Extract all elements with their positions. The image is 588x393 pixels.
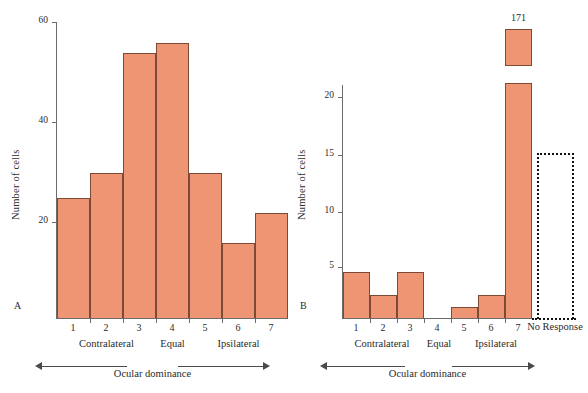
panel-a-ytick-label-20: 20 — [22, 215, 48, 225]
panel-b-xlabel-4: 4 — [427, 322, 447, 333]
panel-b-xlabel-6: 6 — [481, 322, 501, 333]
panel-b-xtick-sep-5 — [478, 319, 479, 323]
panel-b-bar-2 — [370, 295, 397, 319]
panel-a-bar-5 — [189, 173, 222, 319]
panel-a-xtick-sep-3 — [156, 319, 157, 323]
panel-a-bar-2 — [90, 173, 123, 319]
panel-b-xlabel-2: 2 — [373, 322, 393, 333]
panel-b-y-axis-label: Number of cells — [296, 120, 307, 220]
panel-b-xlabel-3: 3 — [400, 322, 420, 333]
panel-b-no-response-label: No Response — [520, 321, 588, 333]
panel-b-label: B — [300, 300, 307, 311]
panel-b-xlabel-5: 5 — [454, 322, 474, 333]
panel-b-group-contralateral: Contralateral — [340, 338, 424, 349]
panel-a-label: A — [14, 300, 22, 311]
panel-b-group-ipsilateral: Ipsilateral — [454, 338, 538, 349]
panel-a-bar-7 — [255, 213, 288, 319]
panel-a-bar-4 — [156, 43, 189, 319]
arrow-line-right — [452, 366, 528, 367]
panel-b-xtick-sep-1 — [370, 319, 371, 323]
panel-a-xlabel-1: 1 — [63, 322, 83, 333]
arrow-line-left — [42, 366, 127, 367]
panel-b-xlabel-1: 1 — [346, 322, 366, 333]
panel-a-xtick-sep-5 — [222, 319, 223, 323]
panel-b-ytick-label-5: 5 — [308, 260, 334, 270]
panel-b-axis-caption: Ocular dominance — [320, 368, 535, 379]
panel-a-xlabel-3: 3 — [129, 322, 149, 333]
panel-a-xlabel-2: 2 — [96, 322, 116, 333]
panel-b-ytick-15 — [338, 155, 343, 156]
panel-b-bar-7-value-label: 171 — [495, 12, 542, 23]
panel-b-bar-7-lower-segment — [505, 83, 532, 319]
panel-a-bar-6 — [222, 243, 255, 319]
panel-b-bar-3 — [397, 272, 424, 319]
panel-b-ytick-10 — [338, 212, 343, 213]
panel-a-xtick-sep-4 — [189, 319, 190, 323]
panel-b-ytick-5 — [338, 267, 343, 268]
panel-a: A Number of cells 60 40 20 1 2 3 4 5 — [0, 0, 286, 393]
panel-a-xlabel-4: 4 — [162, 322, 182, 333]
panel-b-xtick-sep-3 — [424, 319, 425, 323]
panel-b-xtick-sep-2 — [397, 319, 398, 323]
panel-a-xlabel-6: 6 — [228, 322, 248, 333]
panel-b-ytick-label-20: 20 — [308, 90, 334, 100]
panel-a-xtick-sep-6 — [255, 319, 256, 323]
panel-b-ytick-label-10: 10 — [308, 205, 334, 215]
panel-a-group-ipsilateral: Ipsilateral — [189, 338, 288, 349]
panel-a-group-contralateral: Contralateral — [57, 338, 156, 349]
arrow-line-right — [178, 366, 263, 367]
panel-b-ytick-20 — [338, 97, 343, 98]
panel-b-bar-7-upper-segment — [505, 29, 532, 66]
panel-a-xtick-sep-2 — [123, 319, 124, 323]
panel-a-ytick-40 — [52, 122, 57, 123]
panel-a-y-axis-label: Number of cells — [10, 120, 21, 220]
panel-a-xlabel-5: 5 — [195, 322, 215, 333]
panel-a-ytick-label-60: 60 — [22, 15, 48, 25]
panel-a-bar-3 — [123, 53, 156, 319]
panel-a-axis-caption: Ocular dominance — [35, 368, 270, 379]
panel-a-ytick-60 — [52, 22, 57, 23]
panel-b-x-axis-dotted-extension — [532, 318, 576, 320]
panel-b-bar-1 — [343, 272, 370, 319]
panel-b-xtick-sep-6 — [505, 319, 506, 323]
panel-b-no-response-bar — [537, 153, 574, 319]
panel-a-ytick-label-40: 40 — [22, 115, 48, 125]
panel-a-xtick-sep-1 — [90, 319, 91, 323]
panel-a-xlabel-7: 7 — [261, 322, 281, 333]
panel-b: B Number of cells 20 15 10 5 171 — [287, 0, 573, 393]
arrow-line-left — [327, 366, 405, 367]
panel-b-ytick-label-15: 15 — [308, 148, 334, 158]
panel-b-bar-6 — [478, 295, 505, 319]
panel-a-bar-1 — [57, 198, 90, 319]
panel-b-xtick-sep-4 — [451, 319, 452, 323]
